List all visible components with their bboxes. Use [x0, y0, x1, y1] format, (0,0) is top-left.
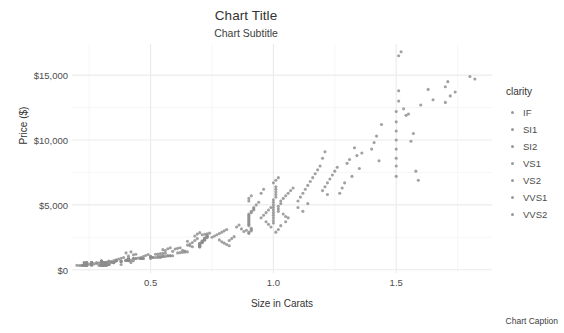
scatter-point [375, 135, 378, 138]
scatter-point [264, 220, 267, 223]
scatter-point [343, 181, 346, 184]
scatter-point [292, 186, 295, 189]
scatter-point [196, 233, 199, 236]
legend-item-label: VVS1 [519, 192, 547, 203]
scatter-point [397, 100, 400, 103]
scatter-point [370, 148, 373, 151]
scatter-point [127, 255, 130, 258]
legend-item-si1[interactable]: SI1 [505, 121, 564, 138]
scatter-point [397, 54, 400, 57]
scatter-point [282, 212, 285, 215]
scatter-point [377, 159, 380, 162]
scatter-point [287, 192, 290, 195]
legend-item-label: IF [519, 107, 531, 118]
scatter-point [454, 90, 457, 93]
scatter-point [306, 202, 309, 205]
y-tick-label: $15,000 [2, 70, 68, 81]
scatter-point [105, 261, 108, 264]
scatter-point [191, 245, 194, 248]
scatter-point [326, 181, 329, 184]
scatter-point [252, 206, 255, 209]
scatter-point [353, 146, 356, 149]
scatter-point [225, 228, 228, 231]
scatter-point [147, 253, 150, 256]
plot-panel [72, 44, 492, 273]
scatter-point [183, 249, 186, 252]
scatter-point [279, 224, 282, 227]
scatter-point [350, 175, 353, 178]
scatter-point [400, 50, 403, 53]
scatter-point [228, 239, 231, 242]
scatter-point [301, 210, 304, 213]
scatter-point [287, 216, 290, 219]
scatter-point [395, 129, 398, 132]
legend-key-icon [505, 213, 519, 216]
scatter-point [355, 154, 358, 157]
x-tick-label: 0.5 [144, 277, 157, 288]
scatter-point [149, 255, 152, 258]
legend-key-icon [505, 128, 519, 131]
scatter-point [321, 157, 324, 160]
scatter-point [360, 151, 363, 154]
scatter-point [164, 249, 167, 252]
legend-item-label: VVS2 [519, 209, 547, 220]
scatter-points-layer [72, 44, 492, 273]
scatter-point [120, 260, 123, 263]
scatter-point [132, 253, 135, 256]
scatter-point [319, 164, 322, 167]
scatter-point [304, 188, 307, 191]
scatter-point [358, 167, 361, 170]
scatter-point [110, 260, 113, 263]
scatter-point [120, 263, 123, 266]
scatter-point [186, 240, 189, 243]
legend-item-vs1[interactable]: VS1 [505, 155, 564, 172]
scatter-point [171, 250, 174, 253]
scatter-point [269, 225, 272, 228]
scatter-point [237, 223, 240, 226]
legend-items: IFSI1SI2VS1VS2VVS1VVS2 [505, 104, 564, 223]
scatter-point [473, 77, 476, 80]
scatter-point [311, 176, 314, 179]
scatter-chart-figure: Chart Title Chart Subtitle Price ($) Siz… [0, 0, 564, 333]
x-tick-label: 1.5 [390, 277, 403, 288]
legend-item-vs2[interactable]: VS2 [505, 172, 564, 189]
scatter-point [100, 261, 103, 264]
scatter-point [449, 94, 452, 97]
scatter-point [284, 220, 287, 223]
scatter-point [395, 110, 398, 113]
scatter-point [75, 264, 78, 267]
legend-item-vvs2[interactable]: VVS2 [505, 206, 564, 223]
scatter-point [274, 179, 277, 182]
scatter-point [277, 228, 280, 231]
scatter-point [122, 256, 125, 259]
scatter-point [247, 197, 250, 200]
scatter-point [395, 157, 398, 160]
scatter-point [90, 263, 93, 266]
scatter-point [395, 120, 398, 123]
scatter-point [407, 113, 410, 116]
y-tick-label: $5,000 [2, 199, 68, 210]
scatter-point [272, 198, 275, 201]
scatter-point [233, 235, 236, 238]
legend-item-if[interactable]: IF [505, 104, 564, 121]
scatter-point [395, 175, 398, 178]
legend-item-label: SI2 [519, 141, 537, 152]
legend-key-icon [505, 111, 519, 114]
scatter-point [264, 211, 267, 214]
y-tick-label: $0 [2, 264, 68, 275]
scatter-point [395, 148, 398, 151]
scatter-point [193, 234, 196, 237]
scatter-point [193, 239, 196, 242]
scatter-point [301, 192, 304, 195]
scatter-point [309, 180, 312, 183]
scatter-point [414, 170, 417, 173]
scatter-point [240, 227, 243, 230]
scatter-point [274, 231, 277, 234]
scatter-point [446, 80, 449, 83]
legend-item-label: VS2 [519, 175, 541, 186]
legend-item-vvs1[interactable]: VVS1 [505, 189, 564, 206]
legend-item-label: VS1 [519, 158, 541, 169]
scatter-point [432, 98, 435, 101]
legend-key-icon [505, 162, 519, 165]
legend-item-si2[interactable]: SI2 [505, 138, 564, 155]
